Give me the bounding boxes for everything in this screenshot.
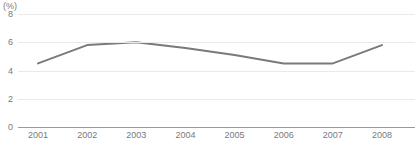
y-axis-tick-label: 6	[8, 38, 13, 47]
gridline: 4	[18, 71, 415, 72]
y-axis-tick-label: 8	[8, 10, 13, 19]
line-chart: (%) 02468 200120022003200420052006200720…	[0, 0, 419, 151]
y-axis-tick-label: 0	[8, 123, 13, 132]
x-axis-tick-label: 2004	[175, 130, 195, 140]
plot-area: 02468	[18, 14, 415, 127]
x-axis-tick-label: 2003	[126, 130, 146, 140]
gridline: 6	[18, 42, 415, 43]
series-line	[38, 42, 382, 63]
gridline: 8	[18, 14, 415, 15]
y-axis-tick-label: 4	[8, 67, 13, 76]
y-axis-tick-label: 2	[8, 95, 13, 104]
x-axis-tick-label: 2001	[28, 130, 48, 140]
x-axis-tick-label: 2006	[274, 130, 294, 140]
x-axis-tick-label: 2005	[225, 130, 245, 140]
chart-footnote	[3, 144, 415, 151]
x-axis-baseline: 0	[18, 127, 415, 128]
x-axis-tick-label: 2007	[323, 130, 343, 140]
x-axis-tick-label: 2002	[77, 130, 97, 140]
x-axis-labels: 20012002200320042005200620072008	[18, 130, 415, 142]
x-axis-tick-label: 2008	[372, 130, 392, 140]
gridline: 2	[18, 99, 415, 100]
